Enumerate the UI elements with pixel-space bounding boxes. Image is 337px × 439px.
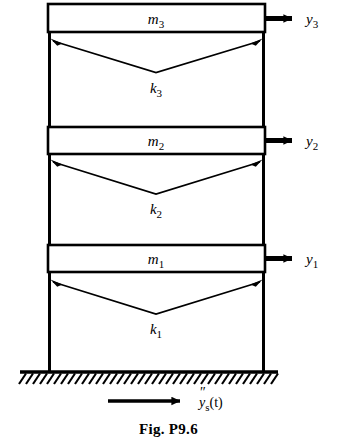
chevron-arrowhead-right-2 <box>251 160 263 167</box>
chevron-arrowhead-right-1 <box>251 280 263 287</box>
displacement-arrow-2: y2 <box>265 133 318 152</box>
shear-building-diagram: m3 y3 k3 m2 <box>0 0 337 439</box>
columns <box>50 4 264 373</box>
chevron-arrowhead-right-3 <box>251 39 263 46</box>
displacement-label-3: y3 <box>304 11 319 30</box>
ground-excitation: ys(t) ″ <box>108 385 223 413</box>
story-3-mass-block: m3 <box>48 4 265 32</box>
figure-caption: Fig. P9.6 <box>0 421 337 438</box>
ground-excitation-primes: ″ <box>200 385 206 400</box>
stiffness-indicator-2: k2 <box>51 160 263 221</box>
chevron-arrowhead-left-3 <box>51 39 63 46</box>
story-2-mass-block: m2 <box>48 127 265 154</box>
stiffness-indicator-3: k3 <box>51 39 263 100</box>
figure-p9-6: m3 y3 k3 m2 <box>0 0 337 439</box>
displacement-arrow-3: y3 <box>265 11 319 30</box>
stiffness-label-1: k1 <box>150 321 162 340</box>
double-headed-chevron-arrow-icon <box>53 282 260 314</box>
displacement-label-1: y1 <box>304 251 318 270</box>
story-1-mass-block: m1 <box>48 245 265 272</box>
stiffness-indicator-1: k1 <box>51 280 263 341</box>
double-headed-chevron-arrow-icon <box>53 41 260 73</box>
ground-hatch-ticks <box>19 374 278 385</box>
displacement-arrow-1: y1 <box>265 251 318 270</box>
chevron-arrowhead-left-1 <box>51 280 63 287</box>
hatched-ground-icon <box>19 372 278 384</box>
chevron-arrowhead-left-2 <box>51 160 63 167</box>
displacement-label-2: y2 <box>304 133 318 152</box>
stiffness-label-2: k2 <box>150 201 162 220</box>
stiffness-label-3: k3 <box>150 80 163 99</box>
double-headed-chevron-arrow-icon <box>53 162 260 194</box>
